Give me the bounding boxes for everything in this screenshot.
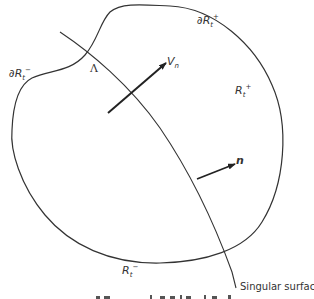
singular-surface-line: [60, 32, 236, 288]
boundary-minus-label: ∂Rt−: [9, 67, 31, 82]
boundary-plus-label: ∂Rt+: [197, 14, 219, 29]
clipped-caption-fragments: [96, 295, 231, 299]
diagram-canvas: [0, 0, 314, 299]
velocity-arrow: [108, 63, 166, 113]
normal-arrow: [197, 164, 235, 179]
singular-surface-diagram: ∂Rt− ∂Rt+ Rt+ Rt− Λ Vn n Singular surfac…: [0, 0, 314, 299]
region-plus-label: Rt+: [235, 84, 251, 99]
intersection-label: Λ: [90, 63, 98, 74]
normal-label: n: [236, 155, 244, 166]
velocity-label: Vn: [167, 56, 179, 70]
region-minus-label: Rt−: [122, 264, 138, 279]
singular-surface-label: Singular surface: [240, 282, 314, 292]
region-boundary: [12, 5, 283, 263]
